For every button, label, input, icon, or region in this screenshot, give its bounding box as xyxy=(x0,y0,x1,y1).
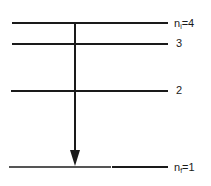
level-line-n4 xyxy=(12,22,168,24)
level-line-n2 xyxy=(11,90,168,92)
level-line-n1-left xyxy=(9,166,111,168)
level-label-n1: nf=1 xyxy=(174,161,195,177)
level-label-n4: ni=4 xyxy=(174,17,194,33)
level-label-n3: 3 xyxy=(176,37,182,49)
transition-arrow-shaft xyxy=(74,22,76,152)
level-line-n1-right xyxy=(112,166,168,168)
level-line-n3 xyxy=(12,43,168,45)
arrow-down-icon xyxy=(70,150,80,166)
level-label-n2: 2 xyxy=(176,84,182,96)
